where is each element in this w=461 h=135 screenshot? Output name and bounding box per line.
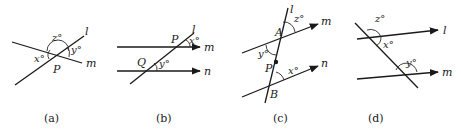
angle-x-label: x° — [288, 65, 299, 76]
angle-y-label: y° — [405, 57, 417, 68]
line-l-label: l — [443, 24, 447, 37]
angle-y-label: y° — [158, 58, 170, 69]
line-m-label: m — [204, 41, 214, 54]
angle-x-label: x° — [189, 35, 200, 46]
line-l-label: l — [85, 25, 89, 38]
angle-x-arc — [276, 72, 284, 80]
line-m-label: m — [442, 66, 452, 79]
point-q-label: Q — [137, 56, 146, 69]
line-n-label: n — [321, 57, 328, 70]
point-p-label: P — [264, 62, 273, 75]
angle-x-label: x° — [34, 53, 45, 64]
line-l-label: l — [192, 23, 196, 36]
caption-a: (a) — [44, 112, 59, 125]
figure-a: z° y° x° P l m (a) — [12, 25, 96, 125]
line-m-label: m — [86, 57, 96, 70]
point-p-label: P — [52, 63, 61, 76]
angle-z-arc — [367, 29, 381, 37]
point-p-dot — [274, 60, 278, 64]
line-n-label: n — [204, 65, 211, 78]
line-n — [242, 66, 318, 97]
angle-y-label: y° — [257, 48, 269, 59]
angle-x-label: x° — [383, 39, 394, 50]
point-a-label: A — [274, 26, 283, 39]
angle-z-label: z° — [374, 13, 385, 24]
figure-b: x° y° P Q l m n (b) — [117, 23, 214, 125]
angle-z-label: z° — [293, 13, 304, 24]
line-m-label: m — [321, 15, 331, 28]
point-p-label: P — [170, 33, 179, 46]
caption-b: (b) — [156, 112, 172, 125]
caption-c: (c) — [273, 112, 288, 125]
point-b-label: B — [269, 88, 278, 101]
geometry-figures: z° y° x° P l m (a) x° y° P Q l m n (b) z… — [0, 0, 461, 135]
figure-c: z° y° x° A P B l m n (c) — [242, 3, 331, 125]
caption-d: (d) — [368, 112, 384, 125]
line-m — [357, 72, 438, 79]
angle-x-arc — [48, 50, 50, 59]
angle-y-label: y° — [70, 44, 82, 55]
figure-d: z° x° y° l m (d) — [355, 13, 452, 125]
line-l — [357, 30, 438, 39]
angle-z-label: z° — [51, 32, 62, 43]
line-l-label: l — [290, 3, 294, 16]
